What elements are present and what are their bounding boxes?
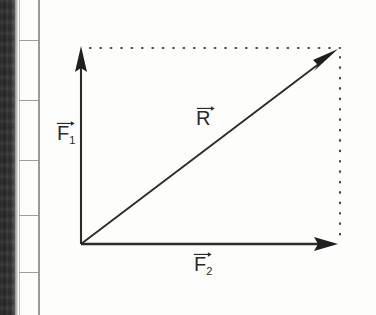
vector-label-r: R (196, 108, 210, 131)
vector-r-shaft (81, 60, 324, 244)
vector-label-f2-subscript: 2 (206, 265, 212, 277)
vector-label-r-letter: R (196, 107, 210, 129)
vector-label-f1-letter: F (57, 122, 69, 144)
vector-label-f1-subscript: 1 (69, 134, 75, 146)
vector-label-f2: F2 (194, 254, 212, 277)
figure-page: F1 R F2 (0, 0, 376, 315)
vector-diagram (0, 0, 376, 315)
vector-label-f1: F1 (57, 123, 75, 146)
vector-diagram-svg (0, 0, 376, 315)
vector-r-arrowhead (313, 49, 338, 71)
vector-label-f2-letter: F (194, 253, 206, 275)
